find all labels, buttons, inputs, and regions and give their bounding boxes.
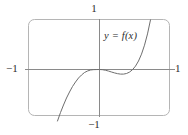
function-equation-label: y = f(x)	[104, 30, 137, 41]
axis-tick-label-top: 1	[0, 3, 188, 14]
axis-tick-label-right: 1	[175, 63, 181, 74]
axis-tick-label-left: −1	[6, 63, 18, 74]
axis-tick-label-bottom: −1	[0, 119, 188, 130]
plot-canvas	[0, 0, 188, 135]
function-graph-figure: 1 −1 −1 1 y = f(x)	[0, 0, 188, 135]
